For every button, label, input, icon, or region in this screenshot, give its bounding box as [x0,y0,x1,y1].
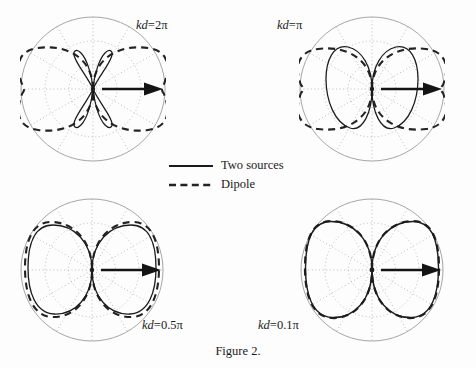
origin-marker [91,87,95,91]
direction-arrow [381,83,442,96]
kd-value: 0.1π [277,318,299,332]
direction-arrow [101,264,161,277]
polar-panel-kd-01pi [300,198,444,342]
panel-label-kd-05pi: kd=0.5π [142,318,183,333]
panel-label-kd-01pi: kd=0.1π [258,318,299,333]
origin-marker [370,268,375,273]
figure-2-radiation-patterns: kd=2π [0,0,476,368]
kd-equals: = [270,318,277,332]
legend-item-dipole: Dipole [168,175,318,194]
panel-label-kd-2pi: kd=2π [136,18,167,33]
legend: Two sources Dipole [168,156,318,194]
kd-equals: = [148,18,155,32]
kd-equals: = [289,18,296,32]
kd-value: π [296,18,302,32]
direction-arrow [381,264,441,277]
legend-item-two-sources: Two sources [168,156,318,175]
origin-marker [370,87,374,91]
panel-label-kd-pi: kd=π [277,18,302,33]
polar-plot-kd-pi [299,16,445,162]
polar-plot-kd-2pi [20,16,166,162]
kd-symbol: kd [258,318,270,332]
polar-panel-kd-2pi [20,16,166,162]
polar-plot-kd-01pi [300,198,444,342]
origin-marker [90,268,94,272]
kd-equals: = [154,318,161,332]
legend-label-two-sources: Two sources [221,158,284,173]
kd-value: 2π [155,18,168,32]
legend-swatch-solid-icon [168,161,214,171]
kd-symbol: kd [136,18,148,32]
polar-panel-kd-pi [299,16,445,162]
kd-symbol: kd [277,18,289,32]
kd-symbol: kd [142,318,154,332]
legend-swatch-dashed-icon [168,180,214,190]
legend-label-dipole: Dipole [221,177,255,192]
kd-value: 0.5π [161,318,183,332]
direction-arrow [102,83,163,96]
figure-caption: Figure 2. [0,344,476,359]
